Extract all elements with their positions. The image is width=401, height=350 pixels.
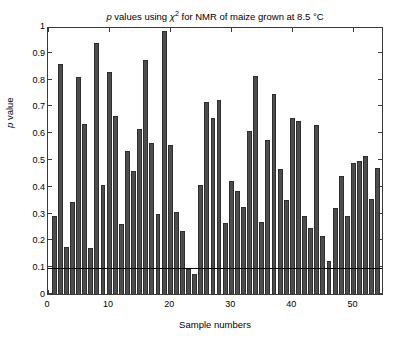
x-tick-mark-top: [48, 28, 49, 32]
y-axis-label-p: p: [4, 123, 15, 128]
y-tick-mark-right: [378, 239, 382, 240]
bar: [186, 269, 191, 294]
bar: [333, 208, 338, 294]
bar: [88, 248, 93, 294]
bars-layer: [48, 28, 382, 294]
bar: [284, 200, 289, 294]
bar: [198, 185, 203, 294]
bar: [320, 236, 325, 294]
y-tick-mark: [48, 186, 52, 187]
x-tick-mark: [231, 290, 232, 294]
chart-figure: p values using χ2 for NMR of maize grown…: [0, 0, 401, 350]
y-tick-mark-right: [378, 186, 382, 187]
x-tick-mark: [353, 290, 354, 294]
bar: [180, 231, 185, 294]
x-tick-label: 50: [332, 299, 372, 309]
plot-area: [47, 27, 383, 295]
y-tick-label: 0.5: [5, 156, 45, 165]
bar: [339, 176, 344, 294]
y-tick-label: 0.7: [5, 102, 45, 111]
y-tick-label: 0.6: [5, 129, 45, 138]
bar: [174, 212, 179, 294]
x-tick-label: 0: [27, 299, 67, 309]
x-tick-label: 30: [210, 299, 250, 309]
bar: [137, 129, 142, 294]
x-tick-mark-top: [353, 28, 354, 32]
bar: [363, 156, 368, 294]
bar: [247, 131, 252, 294]
y-tick-mark: [48, 213, 52, 214]
bar: [302, 216, 307, 294]
x-axis-label: Sample numbers: [47, 319, 383, 330]
bar: [327, 261, 332, 295]
bar: [162, 31, 167, 294]
x-tick-mark-top: [109, 28, 110, 32]
bar: [259, 222, 264, 294]
y-tick-mark: [48, 239, 52, 240]
bar: [229, 181, 234, 294]
bar: [272, 94, 277, 294]
x-tick-label: 40: [271, 299, 311, 309]
bar: [223, 223, 228, 294]
x-tick-mark-top: [231, 28, 232, 32]
bar: [235, 191, 240, 294]
y-tick-mark: [48, 105, 52, 106]
chart-title-tail: for NMR of maize grown at 8.5 °C: [179, 11, 324, 22]
y-tick-mark: [48, 52, 52, 53]
bar: [278, 169, 283, 294]
x-tick-mark: [292, 290, 293, 294]
y-tick-mark-right: [378, 132, 382, 133]
bar: [204, 102, 209, 294]
bar: [119, 224, 124, 294]
x-tick-mark: [48, 290, 49, 294]
x-tick-mark-top: [292, 28, 293, 32]
bar: [351, 163, 356, 294]
y-tick-label: 1: [5, 22, 45, 31]
y-tick-label: 0.8: [5, 76, 45, 85]
bar: [131, 171, 136, 294]
bar: [58, 64, 63, 294]
y-tick-label: 0.4: [5, 183, 45, 192]
x-tick-label: 10: [88, 299, 128, 309]
chart-title: p values using χ2 for NMR of maize grown…: [47, 8, 383, 23]
bar: [149, 143, 154, 294]
y-tick-mark-right: [378, 79, 382, 80]
y-tick-mark-right: [378, 213, 382, 214]
y-tick-mark-right: [378, 293, 382, 294]
bar: [101, 185, 106, 294]
chart-title-mid: values using: [112, 11, 170, 22]
bar: [64, 247, 69, 294]
y-tick-label: 0.3: [5, 210, 45, 219]
bar: [168, 145, 173, 294]
bar: [192, 274, 197, 294]
bar: [369, 199, 374, 294]
bar: [357, 161, 362, 294]
bar: [52, 216, 57, 294]
bar: [143, 60, 148, 295]
bar: [253, 76, 258, 294]
bar: [241, 207, 246, 294]
y-tick-mark-right: [378, 105, 382, 106]
bar: [308, 228, 313, 294]
bar: [314, 125, 319, 294]
bar: [94, 43, 99, 294]
bar: [265, 140, 270, 294]
bar: [375, 168, 380, 294]
y-tick-mark: [48, 132, 52, 133]
y-tick-mark-right: [378, 52, 382, 53]
bar: [125, 151, 130, 294]
y-tick-label: 0.2: [5, 236, 45, 245]
x-tick-mark: [170, 290, 171, 294]
bar: [76, 77, 81, 294]
y-tick-mark: [48, 266, 52, 267]
y-tick-label: 0.9: [5, 49, 45, 58]
x-tick-mark-top: [170, 28, 171, 32]
bar: [345, 216, 350, 294]
y-tick-mark: [48, 159, 52, 160]
y-tick-label: 0.1: [5, 263, 45, 272]
y-tick-label: 0: [5, 290, 45, 299]
y-tick-mark-right: [378, 266, 382, 267]
x-tick-label: 20: [149, 299, 189, 309]
bar: [156, 214, 161, 294]
bar: [70, 202, 75, 294]
